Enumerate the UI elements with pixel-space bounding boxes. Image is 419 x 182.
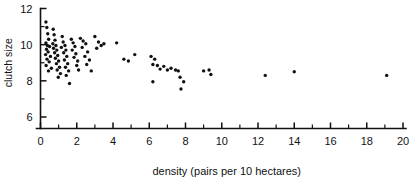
data-point [178, 76, 181, 79]
data-point [47, 69, 50, 72]
y-tick-label: 12 [20, 3, 32, 15]
tick-labels-group: 02468101214161820681012 [20, 3, 409, 147]
data-point [86, 50, 89, 53]
data-point [63, 44, 66, 47]
data-point [102, 42, 105, 45]
x-tick-label: 12 [252, 135, 264, 147]
data-point [151, 80, 154, 83]
data-point [44, 53, 47, 56]
x-tick-label: 2 [74, 135, 80, 147]
data-point [54, 57, 57, 60]
data-point [90, 69, 93, 72]
data-point [50, 66, 53, 69]
data-point [47, 38, 50, 41]
data-point [149, 55, 152, 58]
ticks-group [41, 9, 404, 129]
data-point [68, 82, 71, 85]
plot-canvas: 02468101214161820681012 density (pairs p… [0, 0, 419, 182]
x-tick-label: 16 [324, 135, 336, 147]
data-point [72, 56, 75, 59]
data-point [62, 51, 65, 54]
data-point [67, 69, 70, 72]
data-point [52, 47, 55, 50]
data-point [76, 59, 79, 62]
data-point [45, 26, 48, 29]
data-point [58, 66, 61, 69]
data-point [182, 80, 185, 83]
data-point [115, 41, 118, 44]
data-point [63, 58, 66, 61]
axes-group [37, 9, 407, 129]
data-point [84, 42, 87, 45]
data-point [57, 59, 60, 62]
y-axis-title: clutch size [2, 38, 14, 87]
data-point [48, 45, 51, 48]
data-point [56, 54, 59, 57]
data-point [153, 57, 156, 60]
data-point [209, 73, 212, 76]
data-point [71, 48, 74, 51]
data-point [79, 37, 82, 40]
x-tick-label: 14 [288, 135, 300, 147]
data-point [57, 76, 60, 79]
y-tick-label: 8 [26, 75, 32, 87]
x-tick-label: 18 [361, 135, 373, 147]
data-point [162, 65, 165, 68]
data-point [64, 66, 67, 69]
data-point [264, 74, 267, 77]
data-point [166, 68, 169, 71]
data-point [61, 40, 64, 43]
data-point [156, 64, 159, 67]
data-point [93, 35, 96, 38]
data-point [59, 72, 62, 75]
data-point [65, 74, 68, 77]
data-point [385, 74, 388, 77]
data-point [45, 57, 48, 60]
data-point [70, 38, 73, 41]
data-point [46, 50, 49, 53]
data-point [179, 87, 182, 90]
x-tick-label: 10 [216, 135, 228, 147]
data-point [127, 59, 130, 62]
data-point [49, 55, 52, 58]
x-tick-label: 8 [182, 135, 188, 147]
data-point [52, 33, 55, 36]
data-point [53, 38, 56, 41]
data-point [46, 32, 49, 35]
data-point [77, 68, 80, 71]
data-point [81, 39, 84, 42]
data-point [151, 63, 154, 66]
data-point [169, 66, 172, 69]
data-point [54, 44, 57, 47]
data-point [65, 55, 68, 58]
data-point [51, 42, 54, 45]
data-point [158, 67, 161, 70]
data-point [71, 41, 74, 44]
data-point [177, 69, 180, 72]
x-tick-label: 6 [146, 135, 152, 147]
data-point [74, 52, 77, 55]
data-point [97, 40, 100, 43]
data-point [55, 68, 58, 71]
x-tick-label: 20 [397, 135, 409, 147]
data-point [293, 70, 296, 73]
x-tick-label: 4 [110, 135, 116, 147]
data-point [44, 64, 47, 67]
data-point [202, 69, 205, 72]
x-axis-title: density (pairs per 10 hectares) [152, 165, 301, 177]
data-point [122, 57, 125, 60]
data-point [88, 58, 91, 61]
data-point [75, 64, 78, 67]
data-point [64, 48, 67, 51]
data-points-group [44, 20, 389, 90]
scatter-plot-figure: 02468101214161820681012 density (pairs p… [0, 0, 419, 182]
data-point [66, 62, 69, 65]
data-point [44, 20, 47, 23]
data-point [53, 51, 56, 54]
data-point [95, 47, 98, 50]
data-point [85, 63, 88, 66]
data-point [61, 35, 64, 38]
data-point [60, 46, 63, 49]
y-tick-label: 6 [26, 111, 32, 123]
x-tick-label: 0 [37, 135, 43, 147]
